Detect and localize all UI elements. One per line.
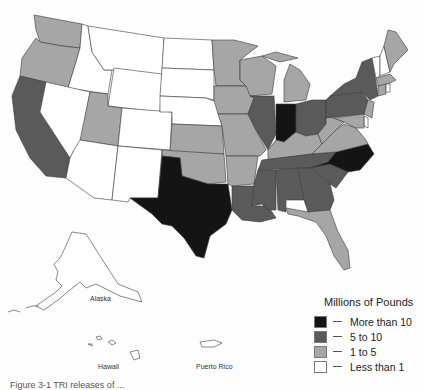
- state-RI: [386, 84, 390, 92]
- legend-label: 1 to 5: [350, 346, 376, 358]
- legend-label: 5 to 10: [350, 331, 382, 343]
- state-AK: [36, 232, 142, 310]
- state-NM: [112, 146, 162, 202]
- alaska-aleutian-islands: [8, 306, 38, 312]
- state-FL: [286, 208, 350, 270]
- puerto-rico-label: Puerto Rico: [196, 363, 233, 370]
- legend-swatch: [314, 361, 327, 373]
- hawaii-label: Hawaii: [98, 363, 119, 370]
- state-PR: [200, 340, 222, 347]
- legend-dash: [333, 321, 342, 322]
- state-KS: [170, 124, 224, 154]
- state-WY: [108, 68, 162, 112]
- state-AR: [226, 156, 258, 186]
- legend-item-5-to-10: 5 to 10: [314, 329, 424, 344]
- state-ND: [162, 38, 214, 70]
- legend-dash: [333, 336, 342, 337]
- legend-dash: [333, 351, 342, 352]
- legend-swatch: [314, 346, 327, 358]
- state-DE: [364, 116, 368, 128]
- legend-label: Less than 1: [350, 361, 404, 373]
- legend-swatch: [314, 316, 327, 328]
- state-CO: [118, 108, 172, 150]
- state-SD: [160, 68, 214, 100]
- legend-item-1-to-5: 1 to 5: [314, 344, 424, 359]
- state-MS: [252, 170, 276, 210]
- legend-title: Millions of Pounds: [324, 296, 424, 308]
- legend-label: More than 10: [350, 316, 412, 328]
- state-HI: [88, 336, 140, 360]
- legend-dash: [333, 366, 342, 367]
- legend: Millions of Pounds More than 10 5 to 10 …: [312, 296, 424, 374]
- alaska-label: Alaska: [90, 295, 111, 302]
- figure-caption: Figure 3-1 TRI releases of ...: [10, 380, 124, 390]
- legend-item-less-than-1: Less than 1: [314, 359, 424, 374]
- legend-swatch: [314, 331, 327, 343]
- legend-item-more-than-10: More than 10: [314, 314, 424, 329]
- state-CT: [378, 84, 386, 96]
